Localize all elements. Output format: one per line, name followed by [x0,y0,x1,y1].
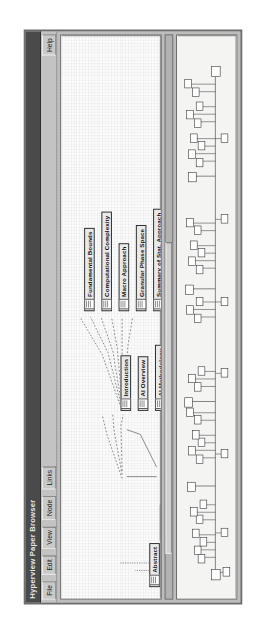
graph-edges [61,35,161,598]
node-label: Macro Approach [120,243,129,297]
graph-canvas[interactable]: HEADER Abstract Contents S-Introduction [60,34,162,599]
horizontal-scrollbar[interactable] [165,34,174,599]
node-label: Abstract [150,543,159,573]
document-icon [121,398,132,409]
document-icon [161,490,162,501]
node-3-views-of-computation[interactable]: 3 Views of Computation [161,345,162,436]
window-titlebar[interactable]: Hyperview Paper Browser [26,31,41,602]
node-label: Granular Phase Space [137,225,146,297]
document-icon [136,298,147,309]
document-icon [119,298,130,309]
node-label: Summary of Stat. Approach [154,209,162,297]
node-ai-methodology[interactable]: AI Methodology [155,344,162,410]
document-icon [84,298,95,309]
overview-thumbnail-graph [177,35,236,598]
document-icon [101,298,112,309]
node-abstract[interactable]: Abstract [149,542,160,586]
node-label: Computational Complexity [102,212,111,297]
scrollbar-thumb[interactable] [166,241,173,553]
document-icon [155,398,162,409]
node-summary-of-stat-approach[interactable]: Summary of Stat. Approach [153,208,162,310]
menu-item-help[interactable]: Help [42,34,56,55]
application-window: Hyperview Paper Browser File Edit View N… [24,29,242,604]
node-label: Fundamental Bounds [85,228,94,297]
node-macro-approach[interactable]: Macro Approach [119,242,130,310]
node-granular-phase-space[interactable]: Granular Phase Space [136,225,147,311]
document-icon [138,398,149,409]
node-fundamental-bounds[interactable]: Fundamental Bounds [84,227,95,311]
node-label: AI Overview [139,356,148,397]
menu-item-edit[interactable]: Edit [42,555,56,574]
document-icon [149,574,160,585]
rotated-application-wrapper: Hyperview Paper Browser File Edit View N… [24,29,242,604]
canvas-texture [61,35,161,598]
node-label: AI Methodology [156,345,162,397]
node-s-overview[interactable]: S-Overview [161,449,162,502]
menu-item-node[interactable]: Node [42,496,56,520]
menu-item-links[interactable]: Links [42,465,56,488]
menu-item-view[interactable]: View [42,526,56,548]
menu-item-file[interactable]: File [42,581,56,599]
document-icon [161,423,162,434]
menu-bar: File Edit View Node Links Help [41,31,57,602]
node-ai-overview[interactable]: AI Overview [138,355,149,410]
overview-pane[interactable] [176,34,237,599]
document-icon [153,298,162,309]
node-label: Introduction [122,356,131,397]
window-body: HEADER Abstract Contents S-Introduction [57,31,240,602]
screenshot-root: Hyperview Paper Browser File Edit View N… [0,0,266,633]
window-title: Hyperview Paper Browser [29,499,38,598]
node-computational-complexity[interactable]: Computational Complexity [101,211,112,310]
node-introduction[interactable]: Introduction [121,355,132,411]
